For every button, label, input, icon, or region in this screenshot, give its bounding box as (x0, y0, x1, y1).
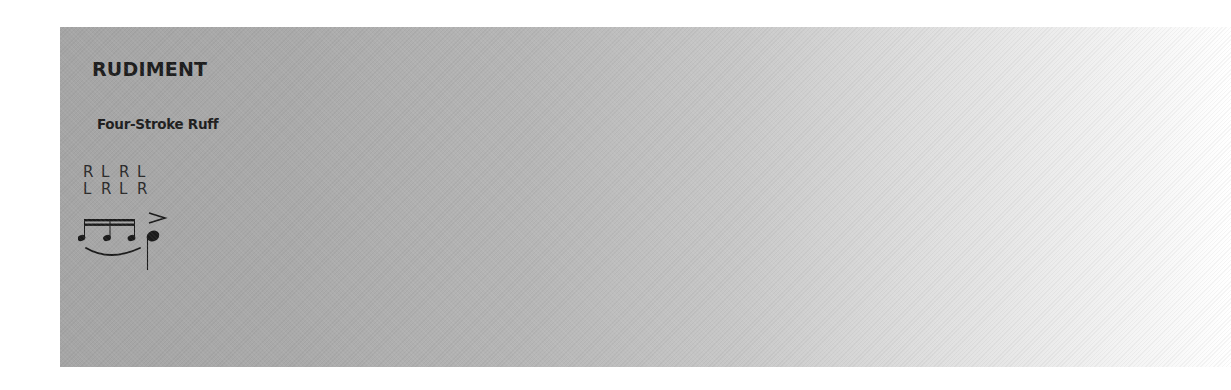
music-notation-icon (78, 210, 198, 290)
accent-icon (149, 213, 165, 223)
rudiment-name: Four-Stroke Ruff (97, 115, 218, 133)
sticking-letter: R (101, 181, 119, 198)
sticking-letter: R (83, 164, 101, 181)
sticking-row-2: L R L R (83, 181, 155, 198)
sticking-letter: L (101, 164, 119, 181)
grace-note-heads-icon (78, 234, 136, 242)
sticking-letter: R (119, 164, 137, 181)
section-heading: RUDIMENT (92, 58, 207, 80)
sticking-row-1: R L R L (83, 164, 155, 181)
rudiment-panel: RUDIMENT Four-Stroke Ruff R L R L L R L … (60, 27, 1231, 367)
slur-icon (86, 248, 140, 255)
sticking-letter: L (137, 164, 155, 181)
sticking-letter: L (119, 181, 137, 198)
sticking-letter: L (83, 181, 101, 198)
grace-note-stems-icon (85, 220, 135, 237)
sticking-letter: R (137, 181, 155, 198)
